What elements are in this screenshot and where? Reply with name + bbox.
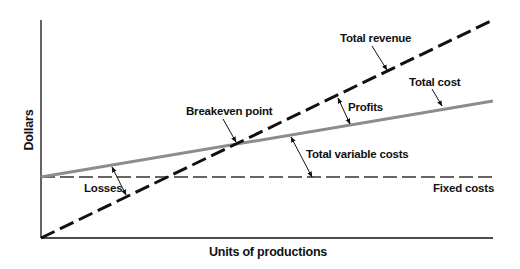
total-cost-pointer	[432, 89, 442, 106]
total-cost-label: Total cost	[409, 76, 461, 88]
total-revenue-line	[41, 20, 493, 238]
fixed-costs-label: Fixed costs	[433, 182, 494, 194]
x-axis-label: Units of productions	[209, 245, 327, 259]
breakeven-chart: Dollars Units of productions Total reven…	[0, 0, 520, 269]
breakeven-point-label: Breakeven point	[186, 105, 273, 117]
profits-label: Profits	[348, 101, 383, 113]
losses-label: Losses	[84, 182, 122, 194]
breakeven-pointer	[223, 119, 236, 142]
total-revenue-label: Total revenue	[340, 32, 411, 44]
total-revenue-pointer	[372, 46, 387, 70]
total-variable-costs-label: Total variable costs	[306, 148, 409, 160]
y-axis-label: Dollars	[22, 109, 36, 150]
